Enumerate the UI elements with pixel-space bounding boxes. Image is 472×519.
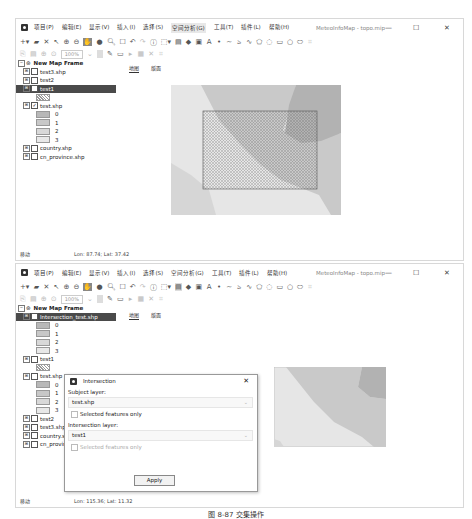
pan-icon[interactable]: ✋ (83, 283, 92, 291)
zoom-level-select[interactable]: 100% (61, 50, 83, 59)
legend-layer[interactable]: ⊞test2 (16, 76, 116, 85)
apply-button[interactable]: Apply (134, 475, 175, 486)
freehand-icon[interactable]: ঌ (236, 36, 242, 48)
menu-item[interactable]: 插件(L) (241, 23, 260, 33)
edit-vertices-icon[interactable]: ⌗ (307, 283, 313, 291)
polygon-icon[interactable]: ⬠ (256, 283, 262, 291)
select-features-icon[interactable]: ⬚▾ (161, 38, 171, 46)
tab-layout[interactable]: 版面 (151, 312, 161, 319)
expand-icon[interactable]: ⊞ (23, 77, 30, 84)
zoom-dropdown-icon[interactable]: ⌄ (87, 50, 93, 58)
point-icon[interactable]: • (216, 38, 222, 46)
curve-icon[interactable]: ∿ (246, 38, 252, 46)
identify-icon[interactable]: ⓘ (150, 37, 157, 47)
label-icon[interactable]: ◆ (186, 38, 192, 46)
undo-icon[interactable]: ↶ (130, 283, 136, 291)
remove-layer-icon[interactable]: ✕ (43, 283, 49, 291)
collapse-icon[interactable]: − (18, 305, 25, 312)
zoom-layer-icon[interactable]: ⊕ (41, 50, 47, 58)
image-icon[interactable]: ▣ (196, 38, 203, 46)
open-folder-icon[interactable]: ▰ (33, 283, 39, 291)
point-icon[interactable]: • (216, 283, 222, 291)
expand-icon[interactable]: ⊞ (23, 85, 30, 92)
menu-item[interactable]: 编辑(E) (62, 23, 82, 33)
zoom-select-icon[interactable]: ⊙ (51, 295, 57, 303)
legend-map-frame[interactable]: −⊜New Map Frame (16, 59, 116, 68)
expand-icon[interactable]: ⊞ (23, 441, 30, 448)
collapse-icon[interactable]: − (18, 60, 25, 67)
expand-icon[interactable]: ⊞ (23, 356, 30, 363)
subject-selected-only-checkbox[interactable]: Selected features only (65, 411, 257, 418)
ellipse-icon[interactable]: ⬭ (297, 283, 303, 291)
legend-layer[interactable]: ⊞test1 (16, 85, 116, 94)
legend-layer[interactable]: ⊞test3.shp (16, 68, 116, 77)
menu-item[interactable]: 插入(I) (117, 269, 135, 277)
layer-visibility-checkbox[interactable]: ✓ (31, 102, 38, 109)
legend-layer[interactable]: ⊞cn_province.shp (16, 153, 116, 162)
image-icon[interactable]: ▣ (196, 283, 203, 291)
expand-icon[interactable]: ⊞ (23, 415, 30, 422)
globe-icon[interactable]: ● (96, 283, 102, 291)
maximize-button[interactable]: ☐ (413, 24, 419, 32)
menu-item[interactable]: 显示(V) (89, 23, 109, 33)
zoom-out-icon[interactable]: ⊖ (73, 38, 79, 46)
menu-item[interactable]: 选择(S) (143, 23, 163, 33)
text-icon[interactable]: A (206, 283, 212, 291)
layer-visibility-checkbox[interactable] (31, 153, 38, 160)
zoom-layer-icon[interactable]: ⊕ (41, 295, 47, 303)
layer-visibility-checkbox[interactable] (31, 145, 38, 152)
intersection-selected-only-checkbox[interactable]: Selected features only (65, 444, 257, 451)
edit-pen-icon[interactable]: ✎ (107, 50, 113, 58)
identify-icon[interactable]: ⓘ (150, 282, 157, 292)
expand-icon[interactable]: ⊞ (23, 153, 30, 160)
attribute-table-icon[interactable]: ▤ (175, 38, 182, 46)
save-edit-icon[interactable]: ▭ (117, 295, 124, 303)
circle-icon[interactable]: ○ (287, 38, 293, 46)
split-icon[interactable]: ⌗ (158, 295, 164, 303)
legend-layer[interactable]: ⊞country.shp (16, 144, 116, 153)
menu-item[interactable]: 编辑(E) (62, 269, 82, 277)
select-arrow-icon[interactable]: ↖ (53, 38, 59, 46)
rectangle-icon[interactable]: ▭ (276, 283, 283, 291)
full-extent-icon[interactable]: ☐ (120, 283, 126, 291)
zoom-dropdown-icon[interactable]: ⌄ (87, 295, 93, 303)
menu-item[interactable]: 工具(T) (214, 23, 234, 33)
layer-visibility-checkbox[interactable] (31, 77, 38, 84)
dialog-close-button[interactable]: ✕ (243, 377, 249, 385)
layer-visibility-checkbox[interactable] (31, 415, 38, 422)
layer-visibility-checkbox[interactable] (31, 85, 38, 92)
minimize-button[interactable]: — (385, 269, 392, 277)
add-layer-icon[interactable]: +▾ (20, 38, 29, 46)
edit-table-icon[interactable]: ▦ (138, 50, 145, 58)
copy-icon[interactable]: ⎘ (20, 295, 26, 303)
expand-icon[interactable]: ⊞ (23, 432, 30, 439)
menu-item[interactable]: 项目(P) (34, 269, 54, 277)
globe-icon[interactable]: ● (96, 38, 102, 46)
close-button[interactable]: ✕ (444, 24, 450, 32)
legend-layer[interactable]: ⊞test1 (16, 355, 116, 364)
menu-item[interactable]: 帮助(H) (269, 23, 289, 33)
attribute-table-icon[interactable]: ▤ (175, 283, 182, 291)
paste-icon[interactable]: ▤ (30, 295, 37, 303)
layer-visibility-checkbox[interactable] (31, 68, 38, 75)
menu-item[interactable]: 插入(I) (117, 23, 135, 33)
delete-feature-icon[interactable]: ✕ (148, 50, 154, 58)
menu-item[interactable]: 工具(T) (212, 269, 232, 277)
zoom-select-icon[interactable]: ⊙ (51, 50, 57, 58)
menu-item[interactable]: 帮助(H) (267, 269, 287, 277)
zoom-in-icon[interactable]: ⊕ (63, 38, 69, 46)
tab-layout[interactable]: 版面 (151, 65, 161, 72)
freehand-icon[interactable]: ঌ (236, 281, 242, 293)
text-icon[interactable]: A (206, 38, 212, 46)
expand-icon[interactable]: ⊞ (23, 373, 30, 380)
legend-layer[interactable]: ⊞Intersection_test.shp (16, 313, 116, 322)
search-icon[interactable]: 🔍︎ (107, 38, 116, 46)
redo-icon[interactable]: ↷ (140, 38, 146, 46)
legend-layer[interactable]: ⊞✓test.shp (16, 102, 116, 111)
menu-item[interactable]: 项目(P) (34, 23, 54, 33)
layer-visibility-checkbox[interactable] (31, 313, 38, 320)
full-extent-icon[interactable]: ☐ (120, 38, 126, 46)
open-folder-icon[interactable]: ▰ (33, 38, 39, 46)
edit-table-icon[interactable]: ▦ (138, 295, 145, 303)
copy-icon[interactable]: ⎘ (20, 50, 26, 58)
